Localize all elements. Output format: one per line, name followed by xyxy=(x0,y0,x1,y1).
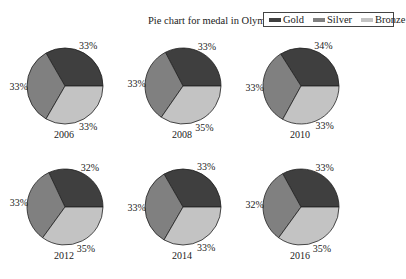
pct-label-silver: 33% xyxy=(9,81,27,92)
pct-label-bronze: 33% xyxy=(197,242,215,253)
pct-label-bronze: 35% xyxy=(77,243,95,254)
pct-label-silver: 33% xyxy=(246,82,264,93)
legend-label-bronze: Bronze xyxy=(375,14,405,25)
pct-label-bronze: 33% xyxy=(315,120,333,131)
bronze-swatch xyxy=(361,18,373,22)
pct-label-bronze: 35% xyxy=(313,243,331,254)
silver-swatch xyxy=(313,18,325,22)
legend-item-gold: Gold xyxy=(269,14,304,25)
pie-2016: 33%32%35%2016 xyxy=(246,162,339,261)
legend: Gold Silver Bronze xyxy=(263,12,394,27)
pct-label-gold: 33% xyxy=(315,162,333,173)
pie-2008: 33%33%35%2008 xyxy=(128,41,221,140)
pct-label-silver: 32% xyxy=(246,199,264,210)
legend-label-gold: Gold xyxy=(283,14,304,25)
pct-label-silver: 33% xyxy=(128,78,146,89)
pct-label-gold: 34% xyxy=(314,40,332,51)
year-label: 2008 xyxy=(172,129,192,140)
legend-label-silver: Silver xyxy=(327,14,352,25)
year-label: 2014 xyxy=(172,250,192,261)
pie-2012: 32%33%35%2012 xyxy=(10,162,103,261)
pct-label-silver: 33% xyxy=(127,202,145,213)
year-label: 2012 xyxy=(54,250,74,261)
pct-label-gold: 33% xyxy=(79,40,97,51)
legend-item-bronze: Bronze xyxy=(361,14,405,25)
legend-item-silver: Silver xyxy=(313,14,352,25)
pie-2014: 33%33%33%2014 xyxy=(127,161,221,261)
gold-swatch xyxy=(269,18,281,22)
pct-label-gold: 33% xyxy=(197,161,215,172)
pie-2010: 34%33%33%2010 xyxy=(246,40,339,140)
pct-label-gold: 33% xyxy=(198,41,216,52)
pct-label-bronze: 35% xyxy=(195,122,213,133)
pct-label-gold: 32% xyxy=(81,162,99,173)
year-label: 2010 xyxy=(290,129,310,140)
pct-label-bronze: 33% xyxy=(79,121,97,132)
pct-label-silver: 33% xyxy=(10,197,28,208)
pie-grid: 33%33%33%200633%33%35%200834%33%33%20103… xyxy=(0,0,406,279)
year-label: 2016 xyxy=(290,250,310,261)
pie-2006: 33%33%33%2006 xyxy=(9,40,103,140)
year-label: 2006 xyxy=(54,129,74,140)
